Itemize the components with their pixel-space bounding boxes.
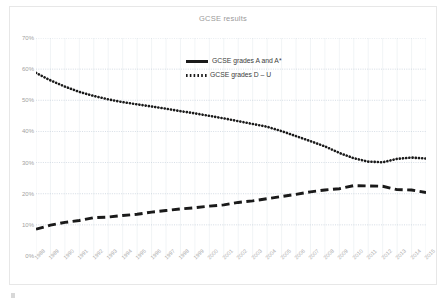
data-series-line — [36, 186, 426, 230]
x-axis-labels: 1988198919901991199219931994199519961997… — [36, 257, 426, 291]
y-axis-tick-label: 10% — [8, 222, 34, 228]
y-axis-tick-label: 60% — [8, 66, 34, 72]
y-axis-tick-label: 40% — [8, 128, 34, 134]
chart-figure: GCSE results 70%60%50%40%30%20%10%0% 198… — [0, 0, 446, 306]
y-axis-tick-label: 30% — [8, 160, 34, 166]
legend-swatch-dotted — [186, 74, 208, 77]
y-axis-tick-label: 70% — [8, 35, 34, 41]
chart-legend: GCSE grades A and A* GCSE grades D – U — [186, 55, 336, 87]
y-axis-tick-label: 20% — [8, 191, 34, 197]
legend-label-d-to-u: GCSE grades D – U — [210, 69, 271, 81]
y-axis-tick-label: 0% — [8, 253, 34, 259]
legend-label-a-and-astar: GCSE grades A and A* — [212, 55, 282, 67]
legend-swatch-dashed — [186, 60, 208, 63]
y-axis-tick-label: 50% — [8, 97, 34, 103]
footer-mark — [11, 293, 15, 298]
chart-title: GCSE results — [0, 14, 446, 23]
data-series-group — [36, 73, 426, 229]
y-axis-labels: 70%60%50%40%30%20%10%0% — [4, 38, 34, 256]
